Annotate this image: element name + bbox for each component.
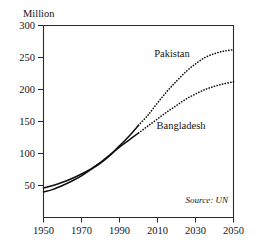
x-tick-label-1950: 1950 xyxy=(33,225,54,236)
y-tick-label-50: 50 xyxy=(25,180,36,191)
y-tick-label-300: 300 xyxy=(19,20,35,31)
x-tick-label-2030: 2030 xyxy=(185,225,206,236)
x-tick-label-2010: 2010 xyxy=(147,225,168,236)
y-tick-label-150: 150 xyxy=(19,116,35,127)
y-tick-label-200: 200 xyxy=(19,84,35,95)
y-tick-label-250: 250 xyxy=(19,52,35,63)
y-axis-title: Million xyxy=(23,8,55,19)
chart-canvas: Million 300 250 200 150 100 50 1950 1970 xyxy=(0,0,259,242)
series-label-pakistan: Pakistan xyxy=(154,48,190,59)
population-projection-chart: Million 300 250 200 150 100 50 1950 1970 xyxy=(0,0,259,242)
source-note: Source: UN xyxy=(186,195,229,205)
x-tick-label-1970: 1970 xyxy=(71,225,92,236)
y-tick-label-100: 100 xyxy=(19,148,35,159)
series-label-bangladesh: Bangladesh xyxy=(157,120,207,131)
x-tick-label-2050: 2050 xyxy=(223,225,244,236)
x-tick-label-1990: 1990 xyxy=(109,225,130,236)
